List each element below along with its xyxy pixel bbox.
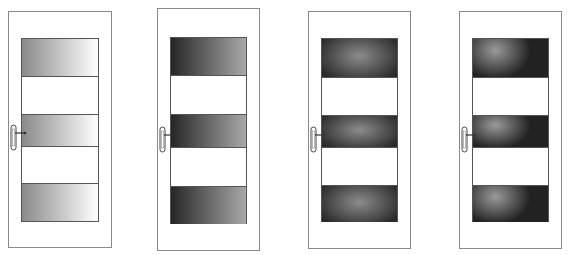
glass-panel-top xyxy=(22,39,98,76)
glass-panel-top xyxy=(473,39,548,77)
divider xyxy=(171,147,246,148)
divider xyxy=(22,76,98,77)
divider xyxy=(171,75,246,76)
divider xyxy=(473,77,548,78)
door-4 xyxy=(459,11,562,249)
door-1 xyxy=(8,11,112,248)
divider xyxy=(322,77,397,78)
door-2 xyxy=(157,8,260,251)
glass-panel-bottom xyxy=(22,184,98,221)
door-handle-icon xyxy=(158,126,182,156)
divider xyxy=(322,147,397,148)
divider xyxy=(473,147,548,148)
glass-panel-top xyxy=(322,39,397,77)
divider xyxy=(22,146,98,147)
door-handle-icon xyxy=(309,126,333,156)
glass-panel-bottom xyxy=(322,186,397,222)
glass-panel-bottom xyxy=(171,187,246,224)
glass-panel-middle xyxy=(171,115,246,147)
glass-panel-middle xyxy=(22,115,98,146)
door-3 xyxy=(308,11,411,249)
glass-panel-bottom xyxy=(473,186,548,222)
glass-panel-top xyxy=(171,38,246,75)
door-handle-icon xyxy=(9,124,33,154)
door-handle-icon xyxy=(460,126,484,156)
glass-panel-middle xyxy=(473,116,548,147)
glass-panel-middle xyxy=(322,116,397,147)
